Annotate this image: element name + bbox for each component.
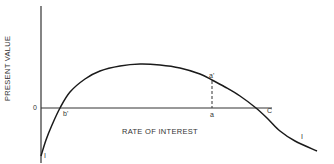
present-value-curve xyxy=(41,64,317,156)
b-prime-label: b' xyxy=(63,110,68,117)
c-label: C xyxy=(267,107,272,114)
chart-canvas xyxy=(0,0,334,164)
curve-start-label: I xyxy=(44,152,46,159)
a-prime-label: a' xyxy=(209,72,214,79)
a-label: a xyxy=(210,111,214,118)
x-axis-label: RATE OF INTEREST xyxy=(122,127,198,136)
y-axis-label: PRESENT VALUE xyxy=(3,36,12,101)
curve-end-label: I xyxy=(301,133,303,140)
zero-label: 0 xyxy=(33,104,37,111)
